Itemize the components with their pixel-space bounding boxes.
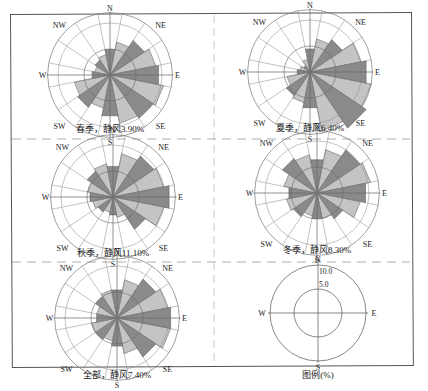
compass-label-E: E [178, 193, 183, 202]
compass-label-SW: SW [254, 119, 266, 128]
legend-label-10: 10.0 [319, 267, 332, 276]
caption-spring: 春季，静风3.90% [76, 123, 145, 134]
caption-autumn: 秋季，静风11.10% [77, 247, 150, 258]
compass-label-S: S [115, 381, 119, 390]
compass-label-NW: NW [260, 139, 274, 148]
compass-label-E: E [182, 314, 187, 323]
compass-label-W: W [246, 189, 254, 198]
compass-label-SW: SW [54, 122, 66, 131]
compass-label-W: W [46, 314, 54, 323]
compass-label-S: S [308, 135, 312, 144]
windrose-legend: 10.05.0NESW [258, 255, 376, 372]
compass-label-SE: SE [163, 365, 172, 374]
compass-label-N: N [107, 4, 113, 13]
compass-label-NW: NW [53, 21, 67, 30]
legend-compass-E: E [372, 309, 377, 318]
legend-compass-N: N [315, 255, 321, 264]
compass-label-SW: SW [61, 365, 73, 374]
legend-compass-W: W [258, 309, 266, 318]
caption-annual: 全部，静风7.40% [83, 369, 152, 380]
compass-label-NE: NE [355, 18, 366, 27]
compass-label-SW: SW [57, 244, 69, 253]
compass-label-NW: NW [253, 18, 267, 27]
compass-label-N: N [307, 1, 313, 10]
caption-summer: 夏季，静风6.40% [276, 122, 345, 133]
windrose-figure: NNEESESSWWNW NNEESESSWWNW NNEESESSWWNW N… [0, 0, 428, 391]
compass-label-NE: NE [362, 139, 373, 148]
compass-label-S: S [111, 260, 115, 269]
compass-label-W: W [239, 68, 247, 77]
compass-label-NE: NE [158, 143, 169, 152]
compass-label-NE: NE [155, 21, 166, 30]
compass-label-NW: NW [56, 143, 70, 152]
compass-label-NE: NE [162, 264, 173, 273]
compass-label-SE: SE [156, 122, 165, 131]
compass-label-SE: SE [363, 240, 372, 249]
compass-label-NW: NW [60, 264, 74, 273]
compass-label-SE: SE [356, 119, 365, 128]
compass-label-E: E [382, 189, 387, 198]
caption-winter: 冬季，静风8.30% [283, 244, 352, 255]
compass-label-E: E [175, 71, 180, 80]
caption-legend: 图例(%) [302, 369, 334, 380]
windrose-annual: NNEESESSWWNW [46, 247, 187, 391]
compass-label-E: E [375, 68, 380, 77]
compass-label-W: W [39, 71, 47, 80]
compass-label-W: W [42, 193, 50, 202]
legend-label-5: 5.0 [319, 280, 329, 289]
compass-label-SE: SE [159, 244, 168, 253]
compass-label-S: S [108, 138, 112, 147]
compass-label-SW: SW [261, 240, 273, 249]
windrose-winter: NNEESESSWWNW [246, 122, 387, 266]
